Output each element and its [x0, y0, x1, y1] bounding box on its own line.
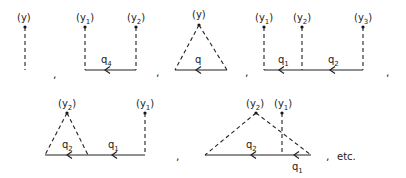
comma: , [156, 66, 160, 79]
label-y3: (y3) [354, 12, 372, 26]
label-y2: (y2) [58, 98, 76, 112]
label-q2: q2 [246, 139, 257, 153]
label-y1: (y1) [255, 12, 273, 26]
label-q1: q1 [108, 139, 119, 153]
label-y1: (y1) [76, 12, 94, 26]
diagram-3: (y) q [175, 9, 227, 74]
comma: , [245, 66, 249, 79]
dashed-line [199, 25, 227, 70]
label-q1: q1 [278, 54, 289, 68]
diagram-5: (y2) (y1) q2 q1 [45, 98, 154, 159]
comma: , [386, 66, 390, 79]
comma: , [326, 150, 330, 163]
feynman-diagram-set: (y) , (y1) (y2) q4 , (y) q , (y1) (y2) (… [0, 0, 406, 178]
diagram-6: (y2) (y1) q2 q1 [205, 98, 311, 175]
label-y2: (y2) [246, 98, 264, 112]
comma: , [53, 68, 57, 81]
label-y2: (y2) [127, 12, 145, 26]
label-q2: q2 [328, 54, 339, 68]
label-y1: (y1) [274, 98, 292, 112]
label-q4: q4 [101, 54, 112, 68]
diagram-2: (y1) (y2) q4 [76, 12, 145, 74]
diagram-4: (y1) (y2) (y3) q1 q2 [255, 12, 372, 74]
diagram-1: (y) [17, 12, 31, 70]
comma: , [176, 150, 180, 163]
etc-label: etc. [337, 151, 356, 162]
label-q2: q2 [62, 139, 73, 153]
label-y1: (y1) [136, 98, 154, 112]
label-y: (y) [17, 12, 31, 23]
label-y: (y) [192, 9, 206, 20]
dashed-line [256, 113, 311, 155]
label-y2: (y2) [293, 12, 311, 26]
label-q1: q1 [292, 161, 303, 175]
label-q: q [195, 54, 201, 65]
